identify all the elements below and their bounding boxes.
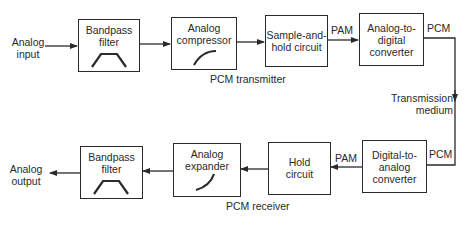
bandpass-shape-icon <box>79 45 139 71</box>
block-label: Sample-and- hold circuit <box>266 29 327 53</box>
tx-bandpass-filter-block: Bandpass filter <box>78 19 140 72</box>
hold-circuit-block: Hold circuit <box>268 142 331 195</box>
analog-expander-block: Analog expander <box>173 143 241 197</box>
block-label: Digital-to- analog converter <box>363 149 426 185</box>
rx-bandpass-filter-block: Bandpass filter <box>80 146 143 199</box>
expander-curve-icon <box>174 170 240 196</box>
transmitter-caption: PCM transmitter <box>210 73 286 85</box>
analog-compressor-block: Analog compressor <box>171 17 237 70</box>
analog-output-label: Analog output <box>4 163 48 187</box>
pcm-label-rx: PCM <box>429 148 452 160</box>
bandpass-shape-icon <box>81 172 142 198</box>
pam-label-rx: PAM <box>335 152 357 164</box>
transmission-medium-label: Transmission medium <box>385 92 453 116</box>
block-label: Hold circuit <box>269 156 330 180</box>
block-label: Analog expander <box>174 148 240 172</box>
block-label: Analog-to- digital converter <box>360 22 423 58</box>
analog-input-label: Analog input <box>8 36 48 60</box>
pam-label-tx: PAM <box>331 24 353 36</box>
sample-and-hold-block: Sample-and- hold circuit <box>265 15 328 67</box>
compressor-curve-icon <box>172 43 236 69</box>
adc-block: Analog-to- digital converter <box>359 13 424 66</box>
receiver-caption: PCM receiver <box>226 200 290 212</box>
pcm-label-tx: PCM <box>427 22 450 34</box>
dac-block: Digital-to- analog converter <box>362 140 427 193</box>
